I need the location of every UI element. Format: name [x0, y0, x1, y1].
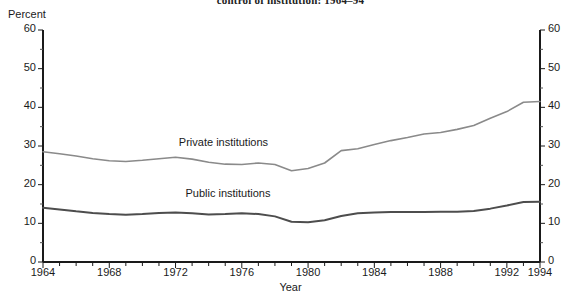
series-label-public-institutions: Public institutions	[185, 187, 270, 199]
series-label-private-institutions: Private institutions	[179, 136, 268, 148]
y-axis-right-tick-label: 0	[548, 254, 578, 266]
y-axis-left-tick-label: 20	[8, 177, 36, 189]
y-axis-left-tick-label: 10	[8, 215, 36, 227]
tick-marks	[38, 30, 545, 268]
y-axis-left-tick-label: 60	[8, 22, 36, 34]
series-line-public-institutions	[43, 202, 540, 222]
y-axis-right-tick-label: 40	[548, 99, 578, 111]
x-axis-title: Year	[0, 281, 581, 293]
x-axis-tick-label: 1972	[156, 266, 196, 278]
y-axis-right-tick-label: 30	[548, 138, 578, 150]
plot-area	[0, 0, 581, 300]
y-axis-left-tick-label: 0	[8, 254, 36, 266]
y-axis-left-tick-label: 50	[8, 61, 36, 73]
x-axis-tick-label: 1994	[520, 266, 560, 278]
y-axis-right-tick-label: 50	[548, 61, 578, 73]
x-axis-tick-label: 1976	[222, 266, 262, 278]
y-axis-right-tick-label: 10	[548, 215, 578, 227]
x-axis-tick-label: 1988	[421, 266, 461, 278]
x-axis-tick-label: 1984	[354, 266, 394, 278]
series-line-private-institutions	[43, 102, 540, 171]
y-axis-right-tick-label: 60	[548, 22, 578, 34]
x-axis-tick-label: 1980	[288, 266, 328, 278]
y-axis-left-tick-label: 40	[8, 99, 36, 111]
y-axis-right-tick-label: 20	[548, 177, 578, 189]
axis-lines	[43, 30, 540, 262]
chart-container: control of institution: 1964–94 Percent …	[0, 0, 581, 300]
x-axis-tick-label: 1968	[89, 266, 129, 278]
series-lines	[43, 102, 540, 223]
x-axis-tick-label: 1964	[23, 266, 63, 278]
y-axis-left-tick-label: 30	[8, 138, 36, 150]
